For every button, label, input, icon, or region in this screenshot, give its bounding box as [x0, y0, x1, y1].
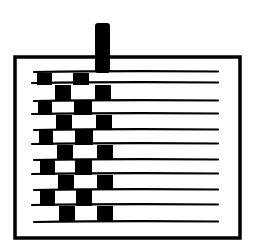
- weft-line: [34, 100, 218, 101]
- weave-block: [97, 145, 113, 160]
- weft-line: [34, 159, 218, 160]
- weave-block: [96, 115, 112, 130]
- weft-line: [32, 113, 218, 114]
- weave-block: [97, 175, 113, 190]
- weave-block: [97, 206, 113, 222]
- weaving-diagram: [0, 0, 257, 249]
- weave-block: [57, 145, 73, 160]
- weave-blocks: [37, 73, 113, 222]
- weave-block: [55, 85, 71, 101]
- weft-line: [34, 71, 218, 72]
- weave-block: [95, 85, 111, 101]
- weave-block: [58, 175, 74, 190]
- weft-line: [34, 189, 218, 190]
- weft-line: [34, 129, 218, 130]
- weft-line: [32, 143, 218, 144]
- weave-block: [56, 115, 72, 130]
- weft-line: [32, 173, 218, 174]
- weft-line: [32, 204, 218, 205]
- warp-post: [95, 23, 110, 73]
- weft-line: [34, 221, 218, 222]
- weave-block: [59, 206, 75, 222]
- weft-line: [32, 82, 218, 83]
